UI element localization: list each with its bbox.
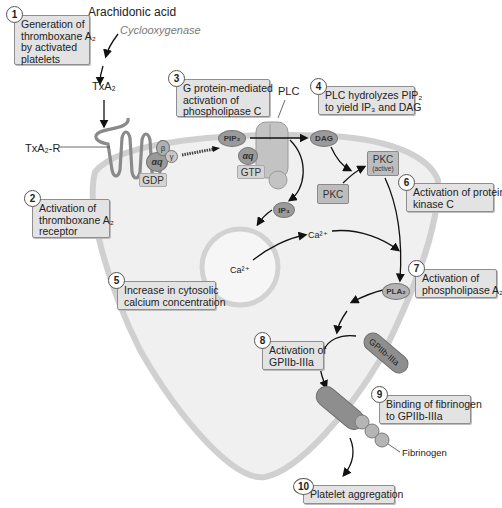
step-7-box: Activation of phospholipase A₂ bbox=[415, 269, 497, 298]
pathway-diagram-canvas bbox=[0, 0, 502, 508]
gamma-subunit: γ bbox=[165, 150, 178, 163]
pkc-inactive-box: PKC bbox=[317, 184, 349, 204]
txa2-receptor-label: TxA₂-R bbox=[25, 142, 60, 154]
gtp-label: GTP bbox=[237, 165, 265, 179]
step-6-number: 6 bbox=[398, 174, 415, 191]
cyclooxygenase-label: Cyclooxygenase bbox=[120, 24, 201, 36]
step-10-number: 10 bbox=[293, 478, 314, 495]
step-8-number: 8 bbox=[254, 332, 271, 349]
step-9-number: 9 bbox=[371, 386, 388, 403]
pkc-active-label: PKC bbox=[373, 155, 394, 164]
pkc-active-box: PKC (active) bbox=[367, 151, 399, 176]
step-5-number: 5 bbox=[108, 272, 125, 289]
ip3-molecule: IP₃ bbox=[273, 202, 295, 218]
fibrinogen-label: Fibrinogen bbox=[402, 447, 447, 459]
calcium-store-label: Ca²⁺ bbox=[230, 264, 250, 276]
step-1-box: Generation of thromboxane A₂ by activate… bbox=[14, 15, 90, 65]
step-8-box: Activation of GPIIb-IIIa bbox=[262, 341, 324, 370]
step-2-box: Activation of thromboxane A₂ receptor bbox=[32, 199, 110, 238]
step-9-box: Binding of fibrinogen to GPIIb-IIIa bbox=[379, 395, 471, 424]
step-6-box: Activation of protein kinase C bbox=[406, 183, 494, 212]
step-2-number: 2 bbox=[24, 190, 41, 207]
step-1-number: 1 bbox=[6, 6, 23, 23]
step-4-box: PLC hydrolyzes PIP₂ to yield IP₃ and DAG bbox=[318, 86, 415, 115]
step-5-box: Increase in cytosolic calcium concentrat… bbox=[117, 281, 216, 310]
alpha-q-gtp-subunit: αq bbox=[238, 147, 258, 165]
dag-molecule: DAG bbox=[310, 130, 338, 147]
step-3-box: G protein-mediated activation of phospho… bbox=[176, 79, 270, 117]
step-7-number: 7 bbox=[408, 260, 425, 277]
step-3-number: 3 bbox=[168, 70, 185, 87]
pkc-active-sublabel: (active) bbox=[372, 164, 393, 173]
calcium-cytosol-label: Ca²⁺ bbox=[308, 229, 328, 241]
arachidonic-acid-label: Arachidonic acid bbox=[88, 6, 176, 18]
pla2-molecule: PLA₂ bbox=[382, 283, 410, 300]
pip2-molecule: PIP₂ bbox=[218, 130, 246, 147]
step-4-number: 4 bbox=[310, 78, 327, 95]
step-10-box: Platelet aggregation bbox=[303, 485, 395, 504]
plc-label: PLC bbox=[278, 85, 299, 97]
gdp-label: GDP bbox=[139, 173, 167, 187]
txa2-label: TxA₂ bbox=[92, 80, 116, 92]
